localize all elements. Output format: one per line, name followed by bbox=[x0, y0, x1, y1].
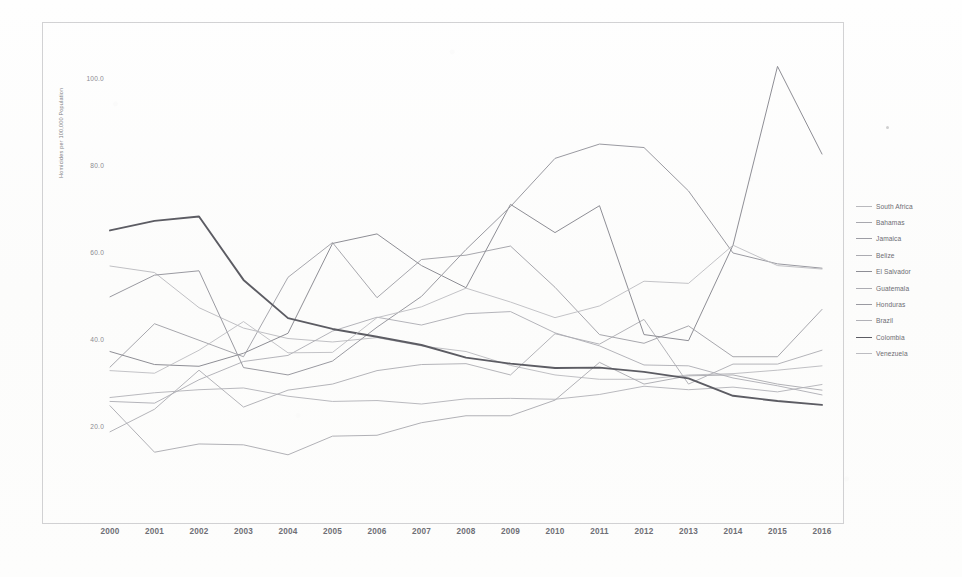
y-tick-label: 100.0 bbox=[70, 75, 104, 82]
x-tick-label: 2004 bbox=[267, 527, 309, 536]
legend-item[interactable]: Belize bbox=[856, 247, 956, 263]
legend-item[interactable]: Colombia bbox=[856, 329, 956, 345]
x-tick-label: 2015 bbox=[757, 527, 799, 536]
legend-color-swatch bbox=[856, 238, 872, 239]
legend-color-swatch bbox=[856, 206, 872, 207]
legend-color-swatch bbox=[856, 337, 872, 338]
legend-item[interactable]: Brazil bbox=[856, 313, 956, 329]
legend-item-label: Jamaica bbox=[876, 235, 901, 242]
legend-color-swatch bbox=[856, 353, 872, 354]
legend-item[interactable]: Honduras bbox=[856, 296, 956, 312]
legend-color-swatch bbox=[856, 222, 872, 223]
y-tick-label: 60.0 bbox=[70, 249, 104, 256]
legend-item[interactable]: South Africa bbox=[856, 198, 956, 214]
legend-item-label: Belize bbox=[876, 252, 895, 259]
legend-color-swatch bbox=[856, 320, 872, 321]
legend-item-label: Bahamas bbox=[876, 219, 905, 226]
x-tick-label: 2013 bbox=[668, 527, 710, 536]
x-tick-label: 2010 bbox=[534, 527, 576, 536]
legend-item-label: El Salvador bbox=[876, 268, 911, 275]
y-tick-label: 40.0 bbox=[70, 336, 104, 343]
x-tick-label: 2001 bbox=[134, 527, 176, 536]
scan-speck bbox=[886, 126, 889, 129]
x-tick-label: 2016 bbox=[801, 527, 843, 536]
legend-item[interactable]: Bahamas bbox=[856, 214, 956, 230]
x-tick-label: 2011 bbox=[579, 527, 621, 536]
x-tick-label: 2006 bbox=[356, 527, 398, 536]
legend-color-swatch bbox=[856, 288, 872, 289]
legend-color-swatch bbox=[856, 255, 872, 256]
x-tick-label: 2003 bbox=[223, 527, 265, 536]
y-tick-label: 80.0 bbox=[70, 162, 104, 169]
legend-item-label: Guatemala bbox=[876, 285, 909, 292]
legend-color-swatch bbox=[856, 304, 872, 305]
x-tick-label: 2005 bbox=[312, 527, 354, 536]
x-tick-label: 2007 bbox=[401, 527, 443, 536]
x-tick-label: 2009 bbox=[490, 527, 532, 536]
y-tick-label: 20.0 bbox=[70, 423, 104, 430]
chart-plot-frame bbox=[42, 22, 844, 524]
y-axis-title: Homicides per 100,000 Population bbox=[58, 18, 64, 178]
legend-item-label: Colombia bbox=[876, 334, 905, 341]
x-tick-label: 2008 bbox=[445, 527, 487, 536]
x-tick-label: 2000 bbox=[89, 527, 131, 536]
legend-item[interactable]: Jamaica bbox=[856, 231, 956, 247]
x-tick-label: 2012 bbox=[623, 527, 665, 536]
legend-item-label: Venezuela bbox=[876, 350, 908, 357]
x-tick-label: 2014 bbox=[712, 527, 754, 536]
legend-item-label: Honduras bbox=[876, 301, 905, 308]
legend-item[interactable]: El Salvador bbox=[856, 264, 956, 280]
legend-item[interactable]: Guatemala bbox=[856, 280, 956, 296]
legend-color-swatch bbox=[856, 271, 872, 272]
legend-item-label: Brazil bbox=[876, 317, 893, 324]
legend-item-label: South Africa bbox=[876, 203, 913, 210]
x-tick-label: 2002 bbox=[178, 527, 220, 536]
chart-legend: South AfricaBahamasJamaicaBelizeEl Salva… bbox=[856, 198, 956, 362]
legend-item[interactable]: Venezuela bbox=[856, 346, 956, 362]
